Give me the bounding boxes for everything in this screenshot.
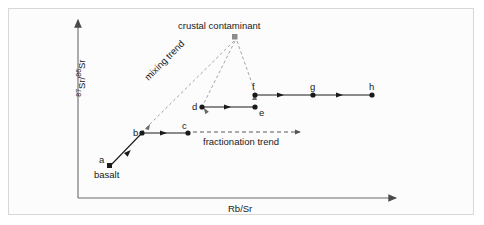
- plot-drawing: [0, 0, 484, 225]
- point-label-c: c: [182, 121, 187, 131]
- marker-point-c[interactable]: [185, 130, 190, 135]
- y-axis-label: 87Sr/86Sr: [75, 43, 87, 113]
- figure-container: 87Sr/86Sr Rb/Sr crustal contaminant mixi…: [0, 0, 484, 225]
- fractionation-segments-group: [142, 92, 372, 135]
- y-axis-label-sup-87: 87: [75, 89, 82, 97]
- arrowhead-f-to-g: [277, 92, 284, 97]
- fractionation-trend-label: fractionation trend: [203, 137, 279, 147]
- point-label-h: h: [369, 82, 374, 92]
- crustal-contaminant-label: crustal contaminant: [178, 21, 260, 31]
- arrowhead-d-to-e: [224, 104, 231, 109]
- point-label-e: e: [259, 108, 264, 118]
- mixing-lines-group: [143, 41, 257, 131]
- y-axis-label-sr-1: Sr/: [76, 77, 87, 89]
- point-label-d: d: [192, 102, 197, 112]
- mixing-line-contaminant-to-b: [143, 41, 234, 131]
- arrowhead-a-to-b: [124, 148, 133, 157]
- point-label-f: f: [252, 82, 255, 92]
- marker-point-d[interactable]: [199, 104, 204, 109]
- marker-point-a[interactable]: [107, 163, 112, 168]
- mixing-line-contaminant-to-d: [203, 41, 235, 105]
- marker-point-g[interactable]: [310, 92, 315, 97]
- marker-point-crustal-contaminant[interactable]: [232, 34, 238, 40]
- basalt-label: basalt: [94, 170, 119, 180]
- point-label-a: a: [99, 155, 104, 165]
- point-label-b: b: [133, 128, 138, 138]
- marker-point-h[interactable]: [369, 92, 374, 97]
- y-axis-label-sup-86: 86: [75, 69, 82, 77]
- y-axis-label-sr-2: Sr: [76, 59, 87, 69]
- marker-point-e[interactable]: [252, 104, 257, 109]
- x-axis-label: Rb/Sr: [228, 204, 252, 214]
- arrowhead-g-to-h: [336, 92, 343, 97]
- point-label-g: g: [310, 82, 315, 92]
- arrowhead-b-to-c: [160, 130, 167, 135]
- marker-point-f[interactable]: [252, 92, 257, 97]
- data-point-markers: [107, 34, 375, 168]
- marker-point-b[interactable]: [139, 130, 144, 135]
- mixing-arrowhead-b: [145, 124, 150, 130]
